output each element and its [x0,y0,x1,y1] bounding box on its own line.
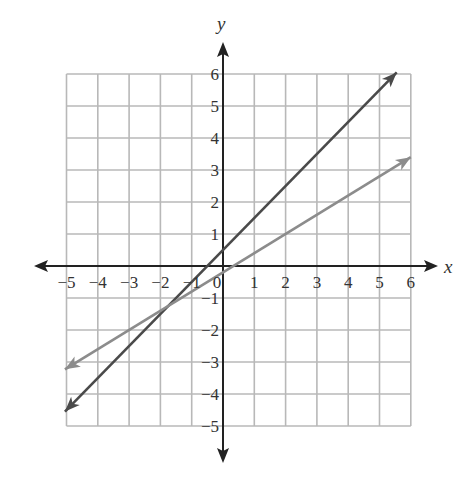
x-tick-label: 5 [375,273,384,292]
x-tick-label: 2 [281,273,290,292]
x-axis-label: x [443,256,453,277]
axes [34,42,438,463]
y-tick-label: 3 [211,161,220,180]
y-tick-label: −5 [201,417,219,436]
series-line-2 [65,157,411,369]
x-tick-label: 1 [250,273,259,292]
x-tick-label: −5 [57,273,75,292]
line-arrowhead-icon [65,356,81,369]
series-line-1 [65,72,397,411]
x-tick-label: 3 [313,273,322,292]
x-tick-label: −4 [89,273,108,292]
y-tick-label: −2 [201,321,219,340]
x-tick-label: −1 [183,273,201,292]
data-lines [65,72,411,411]
tick-labels: −5−4−3−2−10123456654321−1−2−3−4−5 [57,65,415,436]
y-tick-label: −1 [201,289,219,308]
y-tick-label: −4 [201,385,220,404]
y-tick-label: 4 [211,129,220,148]
x-tick-label: −2 [151,273,169,292]
y-tick-label: 5 [211,97,220,116]
coordinate-plane-chart: −5−4−3−2−10123456654321−1−2−3−4−5 x y [0,0,473,483]
y-tick-label: −3 [201,353,219,372]
line-arrowhead-icon [395,157,411,170]
x-tick-label: −3 [120,273,138,292]
y-axis-label: y [215,13,226,34]
grid [67,74,411,426]
x-tick-label: 4 [344,273,353,292]
y-tick-label: 1 [211,225,220,244]
x-tick-label: 6 [407,273,416,292]
y-tick-label: 6 [211,65,220,84]
y-tick-label: 2 [211,193,220,212]
